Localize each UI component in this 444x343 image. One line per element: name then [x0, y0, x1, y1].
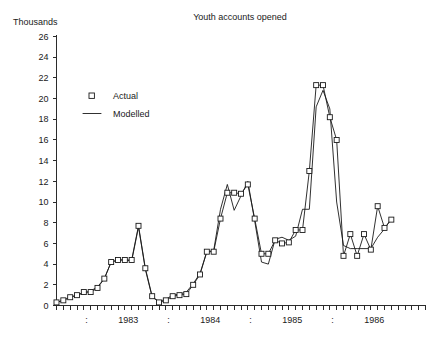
modelled-line	[57, 90, 392, 302]
actual-data-marker	[136, 223, 141, 228]
actual-data-marker	[191, 282, 196, 287]
chart-title: Youth accounts opened	[193, 12, 287, 22]
actual-data-marker	[382, 225, 387, 230]
actual-data-marker	[273, 238, 278, 243]
actual-data-marker	[143, 266, 148, 271]
x-axis-year-separator: :	[85, 315, 88, 325]
actual-data-marker	[102, 276, 107, 281]
legend-label-actual: Actual	[113, 91, 138, 101]
actual-data-marker	[252, 216, 257, 221]
x-axis-year-label: 1985	[282, 315, 302, 325]
actual-data-marker	[163, 298, 168, 303]
y-axis-tick-label: 8	[43, 218, 48, 228]
x-axis: 1983:1984:1985:1986:	[54, 306, 426, 325]
y-axis-tick-label: 2	[43, 280, 48, 290]
actual-data-marker	[129, 257, 134, 262]
actual-data-marker	[307, 169, 312, 174]
actual-data-marker	[341, 253, 346, 258]
legend-label-modelled: Modelled	[113, 109, 150, 119]
actual-data-marker	[198, 272, 203, 277]
x-axis-year-separator: :	[167, 315, 170, 325]
series-actual	[54, 83, 394, 305]
chart-canvas: Thousands Youth accounts opened 02468101…	[0, 0, 444, 343]
actual-data-marker	[68, 295, 73, 300]
actual-data-marker	[116, 257, 121, 262]
actual-data-marker	[368, 247, 373, 252]
actual-data-marker	[239, 191, 244, 196]
y-axis-tick-label: 6	[43, 239, 48, 249]
actual-data-marker	[61, 298, 66, 303]
y-axis-tick-label: 18	[38, 114, 48, 124]
y-axis-tick-label: 14	[38, 156, 48, 166]
y-axis-tick-label: 22	[38, 73, 48, 83]
actual-data-marker	[170, 294, 175, 299]
actual-line	[57, 85, 392, 302]
y-axis-tick-label: 24	[38, 52, 48, 62]
actual-data-marker	[211, 249, 216, 254]
actual-data-marker	[81, 290, 86, 295]
x-axis-year-separator: :	[331, 315, 334, 325]
actual-data-marker	[225, 190, 230, 195]
actual-data-marker	[375, 204, 380, 209]
actual-data-marker	[286, 240, 291, 245]
actual-data-marker	[266, 251, 271, 256]
x-axis-year-label: 1984	[200, 315, 220, 325]
x-axis-year-label: 1986	[364, 315, 384, 325]
actual-data-marker	[389, 217, 394, 222]
actual-data-marker	[150, 294, 155, 299]
actual-data-marker	[75, 293, 80, 298]
y-axis-tick-label: 20	[38, 94, 48, 104]
actual-data-marker	[232, 190, 237, 195]
actual-data-marker	[184, 292, 189, 297]
chart-legend: Actual Modelled	[83, 91, 150, 119]
actual-data-marker	[334, 137, 339, 142]
y-axis-tick-label: 12	[38, 177, 48, 187]
actual-data-marker	[362, 232, 367, 237]
chart-figure: Thousands Youth accounts opened 02468101…	[0, 0, 444, 343]
y-axis-unit-label: Thousands	[13, 17, 58, 27]
y-axis-tick-label: 0	[43, 301, 48, 311]
actual-data-marker	[109, 260, 114, 265]
actual-data-marker	[204, 249, 209, 254]
y-axis-tick-label: 16	[38, 135, 48, 145]
actual-data-marker	[293, 227, 298, 232]
actual-data-marker	[218, 216, 223, 221]
actual-data-marker	[300, 227, 305, 232]
x-axis-year-separator: :	[249, 315, 252, 325]
x-axis-year-label: 1983	[118, 315, 138, 325]
actual-data-marker	[95, 285, 100, 290]
actual-data-marker	[177, 293, 182, 298]
actual-data-marker	[280, 241, 285, 246]
y-axis-tick-label: 4	[43, 259, 48, 269]
actual-data-marker	[355, 253, 360, 258]
actual-data-marker	[321, 83, 326, 88]
actual-data-marker	[245, 182, 250, 187]
y-axis: 02468101214161820222426	[38, 32, 56, 311]
legend-marker-actual	[89, 93, 94, 98]
y-axis-tick-label: 26	[38, 32, 48, 42]
series-modelled	[57, 90, 392, 302]
actual-data-marker	[348, 232, 353, 237]
actual-data-marker	[157, 300, 162, 305]
actual-data-marker	[327, 115, 332, 120]
actual-data-marker	[88, 290, 93, 295]
actual-data-marker	[314, 83, 319, 88]
y-axis-tick-label: 10	[38, 197, 48, 207]
actual-data-marker	[259, 251, 264, 256]
actual-data-marker	[122, 257, 127, 262]
actual-data-marker	[54, 300, 59, 305]
